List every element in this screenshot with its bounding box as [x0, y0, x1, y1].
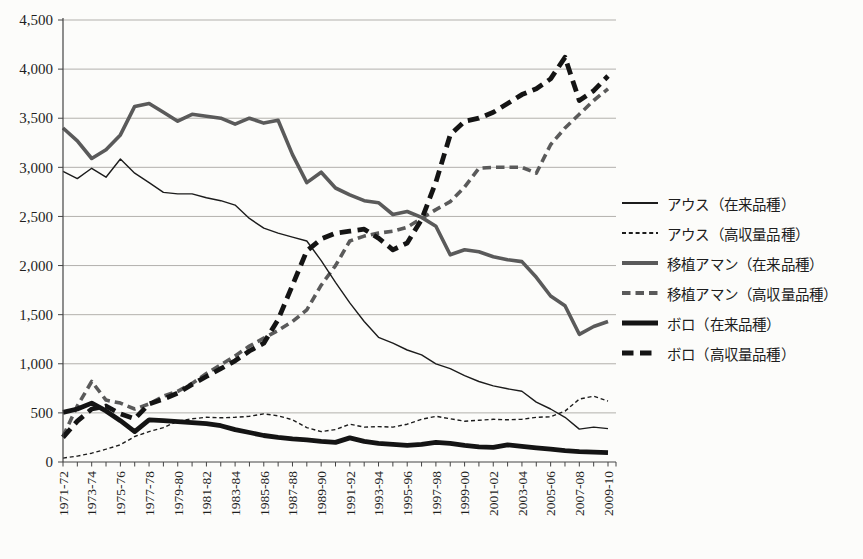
y-axis-tick-label: 1,000 [19, 356, 53, 372]
legend-item-boro-hyv: ボロ（高収量品種） [621, 338, 861, 368]
legend-label-aus-local: アウス（在来品種） [667, 193, 795, 214]
x-axis-tick-label: 1981-82 [199, 471, 214, 516]
line-sample-icon [621, 257, 659, 269]
y-axis-tick-label: 2,500 [19, 209, 53, 225]
y-axis-tick-label: 4,000 [19, 61, 53, 77]
x-axis-tick-label: 2009-10 [601, 471, 616, 516]
x-axis-tick-label: 1983-84 [228, 471, 243, 516]
line-sample-icon [621, 347, 659, 359]
x-axis-tick-label: 1985-86 [257, 471, 272, 516]
x-axis-tick-label: 2005-06 [543, 471, 558, 516]
legend-item-aus-hyv: アウス（高収量品種） [621, 218, 861, 248]
x-axis-tick-label: 1987-88 [285, 471, 300, 516]
x-axis-tick-label: 2007-08 [572, 471, 587, 516]
x-axis-tick-label: 1977-78 [142, 471, 157, 516]
chart-figure: 05001,0001,5002,0002,5003,0003,5004,0004… [0, 0, 863, 559]
legend-label-boro-local: ボロ（在来品種） [667, 313, 781, 334]
x-axis-tick-label: 1993-94 [371, 471, 386, 516]
legend-label-aus-hyv: アウス（高収量品種） [667, 223, 809, 244]
y-axis-tick-label: 500 [31, 405, 54, 421]
legend-item-aus-local: アウス（在来品種） [621, 188, 861, 218]
y-axis-tick-label: 2,000 [19, 258, 53, 274]
line-sample-icon [621, 317, 659, 329]
y-axis-tick-label: 3,500 [19, 110, 53, 126]
y-axis-tick-label: 1,500 [19, 307, 53, 323]
legend-item-aman-local: 移植アマン（在来品種） [621, 248, 861, 278]
series-line-5 [63, 57, 608, 437]
legend-label-aman-hyv: 移植アマン（高収量品種） [667, 283, 837, 304]
y-axis-tick-label: 0 [46, 454, 54, 470]
x-axis-tick-label: 1979-80 [171, 471, 186, 516]
series-line-2 [63, 104, 608, 335]
legend-item-aman-hyv: 移植アマン（高収量品種） [621, 278, 861, 308]
y-axis-tick-label: 3,000 [19, 160, 53, 176]
line-sample-icon [621, 227, 659, 239]
x-axis-tick-label: 1989-90 [314, 471, 329, 516]
legend-item-boro-local: ボロ（在来品種） [621, 308, 861, 338]
legend-label-boro-hyv: ボロ（高収量品種） [667, 343, 795, 364]
y-axis-tick-label: 4,500 [19, 12, 53, 28]
x-axis-tick-label: 2001-02 [486, 471, 501, 516]
line-sample-icon [621, 287, 659, 299]
line-sample-icon [621, 197, 659, 209]
series-line-3 [63, 89, 608, 437]
x-axis-tick-label: 1999-00 [457, 471, 472, 516]
x-axis-tick-label: 1995-96 [400, 471, 415, 516]
x-axis-tick-label: 1975-76 [113, 471, 128, 516]
series-line-0 [63, 159, 608, 429]
chart-legend: アウス（在来品種） アウス（高収量品種） 移植アマン（在来品種） 移植アマン（高… [621, 188, 861, 368]
x-axis-tick-label: 1997-98 [429, 471, 444, 516]
legend-label-aman-local: 移植アマン（在来品種） [667, 253, 823, 274]
x-axis-tick-label: 1971-72 [56, 471, 71, 516]
x-axis-tick-label: 2003-04 [515, 471, 530, 516]
x-axis-tick-label: 1973-74 [84, 471, 99, 516]
x-axis-tick-label: 1991-92 [343, 471, 358, 516]
